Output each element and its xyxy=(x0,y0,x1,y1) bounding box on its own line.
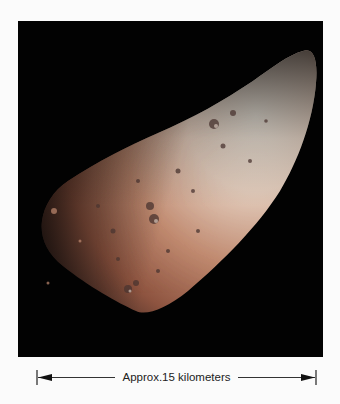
asteroid-photo xyxy=(18,21,323,357)
scale-label: Approx.15 kilometers xyxy=(36,369,317,385)
scale-label-text: Approx.15 kilometers xyxy=(115,371,237,383)
asteroid-image xyxy=(18,21,323,357)
scale-bar: Approx.15 kilometers xyxy=(36,368,317,386)
